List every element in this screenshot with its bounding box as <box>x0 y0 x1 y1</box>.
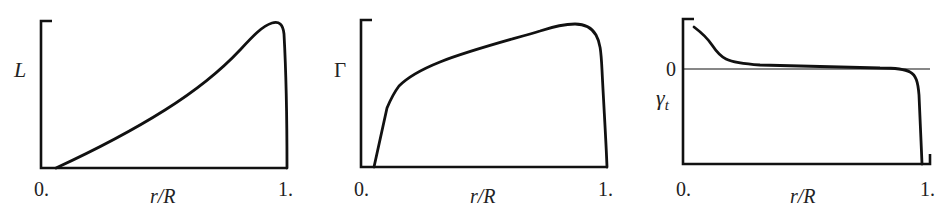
panel-circulation: Γ 0. 1. r/R <box>334 20 613 207</box>
panel-1-curve-lift <box>56 22 287 168</box>
panel-2-curve-circulation <box>374 24 607 167</box>
panel-1-axes <box>41 21 287 168</box>
panel-2-x-start: 0. <box>354 178 369 200</box>
panel-2-ylabel: Γ <box>334 58 346 82</box>
panel-1-x-end: 1. <box>278 178 293 200</box>
panel-1-ylabel: L <box>13 57 26 82</box>
panel-1-xlabel: r/R <box>150 185 176 207</box>
panel-3-zero-label: 0 <box>666 58 676 80</box>
panel-2-x-end: 1. <box>598 178 613 200</box>
panel-3-x-start: 0. <box>676 178 691 200</box>
figure-three-panels: L 0. 1. r/R Γ 0. 1. r/R 0 γt 0. 1. r/R <box>0 0 950 211</box>
panel-3-curve-trailing-vorticity <box>694 27 922 164</box>
panel-2-axes <box>361 20 608 167</box>
panel-2-xlabel: r/R <box>470 185 496 207</box>
panel-3-x-end: 1. <box>920 178 935 200</box>
panel-3-ylabel: γt <box>656 85 670 113</box>
panel-lift: L 0. 1. r/R <box>13 21 293 207</box>
panel-trailing-vorticity: 0 γt 0. 1. r/R <box>656 19 935 207</box>
panel-1-x-start: 0. <box>34 178 49 200</box>
panel-3-xlabel: r/R <box>790 185 816 207</box>
panel-3-axes <box>683 19 930 164</box>
